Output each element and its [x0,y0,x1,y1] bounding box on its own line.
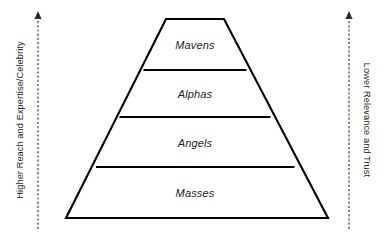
tier-label-masses: Masses [176,188,215,199]
right-axis-arrowhead-icon [345,11,352,19]
right-axis-label: Lower Relevance and Trust [361,63,370,177]
pyramid-diagram: Mavens Alphas Angels Masses Higher Reach… [0,0,390,240]
left-axis-label: Higher Reach and Expertise/Celebrity [16,41,25,198]
tier-label-mavens: Mavens [175,40,214,51]
left-axis-arrowhead-icon [34,11,41,19]
tier-label-angels: Angels [178,138,213,149]
tier-label-alphas: Alphas [178,89,213,100]
pyramid-figure [0,0,390,240]
